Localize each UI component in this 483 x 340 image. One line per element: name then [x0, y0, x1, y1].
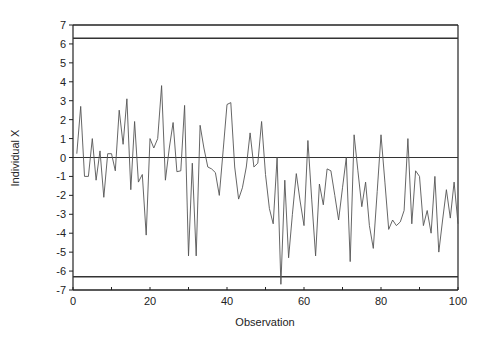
y-axis-ticks: 76543210-1-2-3-4-5-6-7 [56, 19, 73, 296]
x-tick-label: 100 [449, 295, 467, 307]
x-tick-label: 40 [221, 295, 233, 307]
y-tick-label: 4 [60, 76, 66, 88]
y-tick-label: -7 [56, 284, 66, 296]
y-tick-label: 5 [60, 57, 66, 69]
control-limit-lines [73, 38, 458, 277]
y-tick-label: -3 [56, 208, 66, 220]
y-tick-label: 0 [60, 152, 66, 164]
x-axis-title: Observation [235, 316, 294, 328]
y-tick-label: 7 [60, 19, 66, 31]
y-tick-label: 6 [60, 38, 66, 50]
y-tick-label: -5 [56, 246, 66, 258]
y-tick-label: -6 [56, 265, 66, 277]
y-axis-title: Individual X [9, 129, 21, 187]
individual-x-series [77, 86, 458, 285]
x-tick-label: 0 [70, 295, 76, 307]
y-tick-label: -2 [56, 189, 66, 201]
y-tick-label: 1 [60, 133, 66, 145]
x-tick-label: 60 [298, 295, 310, 307]
x-tick-label: 80 [375, 295, 387, 307]
x-tick-label: 20 [144, 295, 156, 307]
y-tick-label: 2 [60, 114, 66, 126]
y-tick-label: -1 [56, 170, 66, 182]
y-tick-label: 3 [60, 95, 66, 107]
y-tick-label: -4 [56, 227, 66, 239]
control-chart: 76543210-1-2-3-4-5-6-7 020406080100 Obse… [0, 0, 483, 340]
